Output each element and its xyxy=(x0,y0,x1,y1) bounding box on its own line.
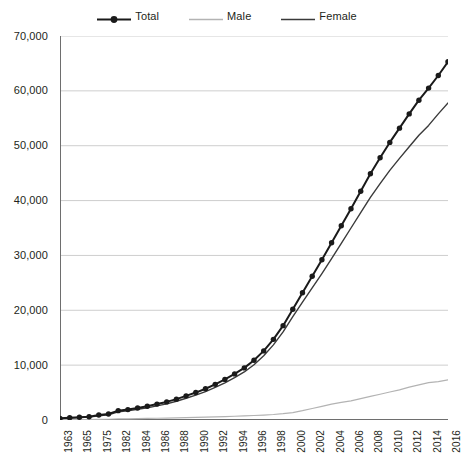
y-tick-label: 50,000 xyxy=(14,140,48,151)
x-tick-label: 1988 xyxy=(180,430,190,453)
x-tick-label: 1994 xyxy=(239,430,249,453)
data-point-total xyxy=(242,365,247,370)
x-tick-label: 2008 xyxy=(374,430,384,453)
series-line-female xyxy=(60,103,448,419)
x-tick-label: 2016 xyxy=(452,430,462,453)
series-line-male xyxy=(60,380,448,420)
x-tick-label: 1998 xyxy=(277,430,287,453)
data-point-total xyxy=(377,155,382,160)
data-point-total xyxy=(319,257,324,262)
x-tick-label: 1992 xyxy=(219,430,229,453)
data-point-total xyxy=(154,401,159,406)
data-point-total xyxy=(358,189,363,194)
data-point-total xyxy=(106,411,111,416)
y-tick-label: 20,000 xyxy=(14,305,48,316)
x-tick-label: 2004 xyxy=(336,430,346,453)
data-point-total xyxy=(280,323,285,328)
x-tick-label: 1986 xyxy=(161,430,171,453)
data-point-total xyxy=(271,337,276,342)
data-point-total xyxy=(213,382,218,387)
x-tick-label: 2000 xyxy=(297,430,307,453)
data-point-total xyxy=(222,377,227,382)
y-axis: 70,00060,00050,00040,00030,00020,00010,0… xyxy=(0,0,54,461)
plot-area xyxy=(60,36,448,420)
data-point-total xyxy=(300,290,305,295)
data-point-total xyxy=(397,125,402,130)
data-point-total xyxy=(203,386,208,391)
x-tick-label: 1975 xyxy=(103,430,113,453)
x-tick-label: 2012 xyxy=(413,430,423,453)
legend-swatch-male-icon xyxy=(189,11,223,22)
x-tick-label: 2014 xyxy=(433,430,443,453)
data-point-total xyxy=(232,371,237,376)
data-point-total xyxy=(77,415,82,420)
x-tick-label: 2006 xyxy=(355,430,365,453)
data-point-total xyxy=(261,348,266,353)
data-point-total xyxy=(60,416,63,420)
x-tick-label: 1996 xyxy=(258,430,268,453)
plot-svg xyxy=(60,36,448,420)
data-point-total xyxy=(67,415,72,420)
x-tick-label: 2010 xyxy=(394,430,404,453)
data-point-total xyxy=(116,408,121,413)
x-tick-label: 2002 xyxy=(316,430,326,453)
data-point-total xyxy=(290,306,295,311)
data-point-total xyxy=(329,240,334,245)
data-point-total xyxy=(193,390,198,395)
legend-swatch-total-icon xyxy=(97,11,131,22)
data-point-total xyxy=(416,97,421,102)
data-point-total xyxy=(348,206,353,211)
legend-swatch-female-icon xyxy=(281,11,315,22)
data-point-total xyxy=(407,111,412,116)
y-tick-label: 10,000 xyxy=(14,360,48,371)
data-point-total xyxy=(183,393,188,398)
data-point-total xyxy=(135,405,140,410)
data-point-total xyxy=(310,274,315,279)
x-tick-label: 1990 xyxy=(200,430,210,453)
x-tick-label: 1965 xyxy=(83,430,93,453)
y-tick-label: 40,000 xyxy=(14,195,48,206)
y-tick-label: 30,000 xyxy=(14,250,48,261)
data-point-total xyxy=(164,399,169,404)
x-tick-label: 1982 xyxy=(122,430,132,453)
y-tick-label: 0 xyxy=(42,415,48,426)
data-point-total xyxy=(174,396,179,401)
x-axis: 1963196519751982198419861988199019921994… xyxy=(60,428,448,461)
x-tick-label: 1963 xyxy=(64,430,74,453)
legend-label-total: Total xyxy=(135,11,159,22)
data-point-total xyxy=(96,412,101,417)
data-point-total xyxy=(125,407,130,412)
data-point-total xyxy=(86,414,91,419)
chart-legend: Total Male Female xyxy=(0,6,454,26)
data-point-total xyxy=(436,73,441,78)
data-point-total xyxy=(251,358,256,363)
legend-label-male: Male xyxy=(227,11,251,22)
y-tick-label: 70,000 xyxy=(14,31,48,42)
data-point-total xyxy=(426,85,431,90)
data-point-total xyxy=(145,404,150,409)
legend-item-female[interactable]: Female xyxy=(281,11,356,22)
y-tick-label: 60,000 xyxy=(14,85,48,96)
data-point-total xyxy=(368,171,373,176)
legend-label-female: Female xyxy=(319,11,356,22)
legend-item-male[interactable]: Male xyxy=(189,11,251,22)
data-point-total xyxy=(387,140,392,145)
data-point-total xyxy=(339,223,344,228)
x-tick-label: 1984 xyxy=(142,430,152,453)
legend-item-total[interactable]: Total xyxy=(97,11,159,22)
